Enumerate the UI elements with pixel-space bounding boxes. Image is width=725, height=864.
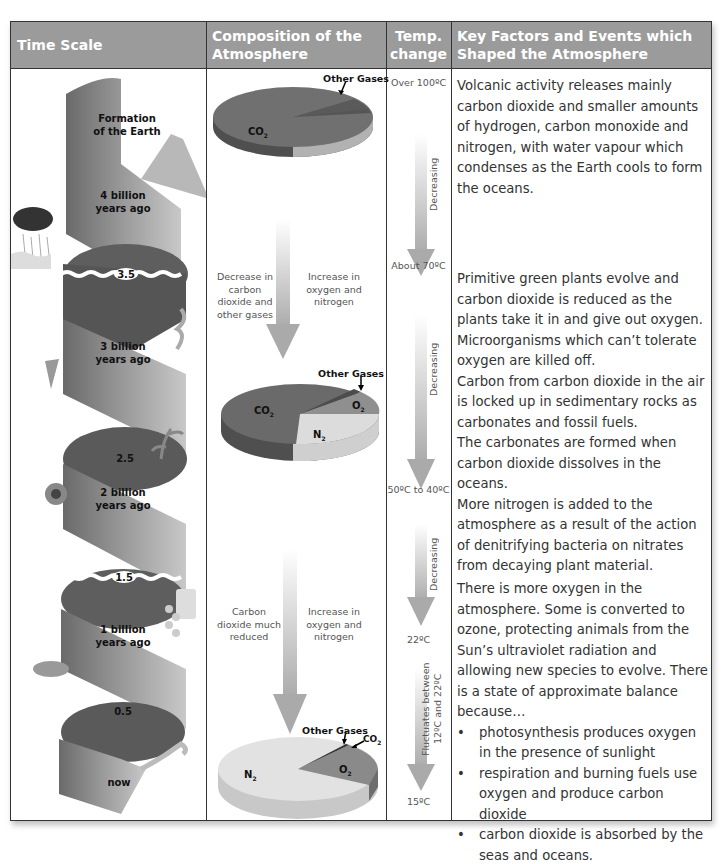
pie2-o2-label: O2 (352, 399, 365, 416)
label-1-billion: 1 billionyears ago (83, 623, 163, 649)
label-3-billion: 3 billionyears ago (83, 340, 163, 366)
temp-over-100: Over 100ºC (386, 77, 451, 90)
arrow1-left-text: Decrease in carbon dioxide and other gas… (210, 271, 280, 321)
bullet-item: •photosynthesis produces oxygen in the p… (457, 723, 709, 764)
atmosphere-table: Time Scale Composition of the Atmosphere… (10, 21, 712, 821)
arrow2-right-text: Increase in oxygen and nitrogen (300, 606, 368, 644)
header-key-factors: Key Factors and Events which Shaped the … (451, 22, 711, 69)
pie-chart-middle (221, 376, 379, 461)
pie-chart-early (213, 81, 373, 157)
temp-15: 15ºC (386, 796, 451, 809)
header-composition-text: Composition of the Atmosphere (212, 28, 362, 62)
header-temp-text: Temp. change (390, 28, 447, 62)
pie3-n2-label: N2 (244, 768, 257, 785)
label-3-5: 3.5 (106, 268, 146, 281)
temp-decreasing-1: Decreasing (428, 149, 440, 219)
pie2-n2-label: N2 (313, 428, 326, 445)
header-time-scale-text: Time Scale (17, 37, 102, 53)
decrease-arrow-2 (283, 549, 297, 699)
header-key-factors-text: Key Factors and Events which Shaped the … (457, 28, 692, 62)
label-1-5: 1.5 (104, 571, 144, 584)
pie3-co2-label: CO2 (363, 733, 381, 749)
arrow1-right-text: Increase in oxygen and nitrogen (300, 271, 368, 309)
pie-chart-today (218, 731, 378, 819)
key-factors-volcanic: Volcanic activity releases mainly carbon… (457, 76, 707, 199)
cloud-icon (13, 207, 53, 231)
bullet-item: •carbon dioxide is absorbed by the seas … (457, 825, 709, 864)
bullet-item: •respiration and burning fuels use oxyge… (457, 764, 709, 826)
header-temp: Temp. change (386, 22, 451, 69)
label-2-billion: 2 billionyears ago (83, 486, 163, 512)
label-2-5: 2.5 (105, 452, 145, 465)
temp-decreasing-3: Decreasing (428, 529, 440, 599)
arrow2-left-text: Carbon dioxide much reduced (214, 606, 284, 644)
header-time-scale: Time Scale (11, 22, 206, 69)
temp-22: 22ºC (386, 634, 451, 647)
pie2-co2-label: CO2 (254, 404, 274, 421)
key-factors-oxygen-balance: There is more oxygen in the atmosphere. … (457, 579, 709, 723)
fern-icon (45, 359, 59, 389)
key-factors-plants: Primitive green plants evolve and carbon… (457, 269, 707, 331)
pie1-other-gases-label: Other Gases (321, 72, 391, 85)
key-factors-block-2: Primitive green plants evolve and carbon… (457, 269, 707, 577)
pie1-co2-label: CO2 (248, 125, 268, 142)
label-now: now (99, 776, 139, 789)
key-factors-block-1: Volcanic activity releases mainly carbon… (457, 76, 707, 199)
pie2-other-gases-label: Other Gases (316, 367, 386, 380)
temp-about-70: About 70ºC (386, 260, 451, 273)
key-factors-carbon-locked: Carbon from carbon dioxide in the air is… (457, 372, 707, 434)
key-factors-microorganisms: Microorganisms which can’t tolerate oxyg… (457, 331, 707, 372)
key-factors-carbonates: The carbonates are formed when carbon di… (457, 433, 707, 495)
key-factors-nitrogen: More nitrogen is added to the atmosphere… (457, 495, 707, 577)
composition-graphics (206, 69, 386, 819)
temp-fluctuates: Fluctuates between 12ºC and 22ºC (420, 654, 446, 764)
temp-50-to-40: 50ºC to 40ºC (386, 484, 451, 497)
label-0-5: 0.5 (103, 705, 143, 718)
label-4-billion: 4 billionyears ago (83, 189, 163, 215)
key-factors-block-3: There is more oxygen in the atmosphere. … (457, 579, 709, 864)
column-divider (451, 22, 452, 820)
ocean-icon (11, 252, 51, 270)
header-composition: Composition of the Atmosphere (206, 22, 386, 69)
temp-decreasing-2: Decreasing (428, 334, 440, 404)
composition-column: Other Gases CO2 Decrease in carbon dioxi… (206, 69, 386, 819)
insect-icon (33, 661, 69, 677)
pie3-o2-label: O2 (339, 763, 352, 780)
pie3-other-gases-label: Other Gases (300, 724, 370, 737)
time-scale-spiral: Formationof the Earth 4 billionyears ago… (11, 69, 206, 819)
temperature-column: Over 100ºC Decreasing About 70ºC Decreas… (386, 69, 451, 819)
label-formation: Formationof the Earth (87, 112, 167, 138)
